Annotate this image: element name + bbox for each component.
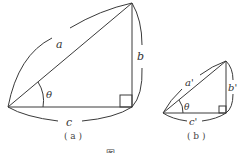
- caption-b: ( b ): [187, 131, 206, 141]
- brace-c-prime-left: [163, 113, 187, 121]
- label-a: a: [56, 38, 63, 51]
- brace-b-prime-upper: [226, 61, 233, 80]
- caption-a: ( a ): [64, 131, 82, 141]
- label-a-prime: a': [185, 77, 194, 88]
- brace-b-upper: [132, 3, 142, 45]
- brace-a-upper: [70, 3, 132, 28]
- label-c-prime: c': [189, 116, 197, 127]
- figure-caption: 图: [106, 149, 115, 153]
- label-b-prime: b': [228, 82, 237, 93]
- triangle-a: [8, 3, 132, 107]
- angle-arc-b: [179, 100, 183, 113]
- similar-triangles-diagram: a b c θ ( a ) a' b' c' θ ( b ) 图: [0, 0, 241, 153]
- label-c: c: [66, 116, 72, 129]
- angle-arc-a: [38, 82, 44, 107]
- brace-b-prime-lower: [226, 94, 233, 113]
- label-b: b: [137, 50, 144, 63]
- brace-c-right: [82, 107, 132, 121]
- label-theta-b: θ: [184, 102, 190, 112]
- panel-a: a b c θ ( a ): [8, 3, 144, 141]
- brace-b-lower: [132, 68, 142, 107]
- right-angle-marker-a: [120, 95, 132, 107]
- triangle-b: [163, 61, 226, 113]
- brace-c-left: [8, 107, 58, 121]
- right-angle-marker-b: [219, 106, 226, 113]
- panel-b: a' b' c' θ ( b ): [163, 61, 237, 141]
- brace-a-prime-upper: [200, 61, 226, 75]
- label-theta-a: θ: [46, 89, 52, 100]
- brace-c-prime-right: [202, 113, 226, 121]
